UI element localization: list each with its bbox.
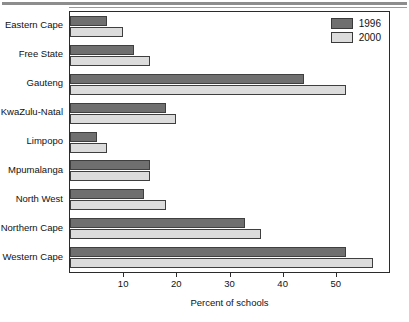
x-tick-mark xyxy=(283,273,284,277)
x-tick-label: 30 xyxy=(224,278,235,289)
legend-swatch-icon xyxy=(331,18,353,29)
bar-eastern-cape-2000 xyxy=(70,27,123,37)
header-rule-thick xyxy=(2,2,407,5)
y-axis-label: Mpumalanga xyxy=(8,165,63,175)
x-tick-mark xyxy=(176,273,177,277)
y-axis-label: Gauteng xyxy=(27,78,63,88)
x-tick-label: 10 xyxy=(118,278,129,289)
x-tick-mark xyxy=(230,273,231,277)
bar-northern-cape-1996 xyxy=(70,218,245,228)
chart-plot-frame: 19962000 xyxy=(69,11,390,273)
x-tick-label: 40 xyxy=(277,278,288,289)
y-axis-label: Free State xyxy=(19,49,63,59)
legend-label: 2000 xyxy=(359,32,381,43)
bar-kwazulu-natal-2000 xyxy=(70,114,176,124)
bar-limpopo-2000 xyxy=(70,143,107,153)
bar-northern-cape-2000 xyxy=(70,229,261,239)
x-tick-mark xyxy=(123,273,124,277)
y-axis-category-labels: Eastern CapeFree StateGautengKwaZulu-Nat… xyxy=(0,11,66,273)
header-rule-thin xyxy=(69,7,407,8)
x-tick-mark xyxy=(336,273,337,277)
bar-western-cape-2000 xyxy=(70,258,373,268)
bar-gauteng-1996 xyxy=(70,74,304,84)
bar-gauteng-2000 xyxy=(70,85,346,95)
bar-western-cape-1996 xyxy=(70,247,346,257)
x-axis-ticks: 1020304050 xyxy=(69,273,390,289)
bar-kwazulu-natal-1996 xyxy=(70,103,166,113)
legend-item: 1996 xyxy=(331,18,381,29)
header-rules xyxy=(0,0,409,10)
y-axis-label: KwaZulu-Natal xyxy=(1,107,63,117)
y-axis-label: Eastern Cape xyxy=(5,20,63,30)
bar-mpumalanga-1996 xyxy=(70,160,150,170)
bar-north-west-2000 xyxy=(70,200,166,210)
x-tick-label: 50 xyxy=(331,278,342,289)
y-axis-label: Western Cape xyxy=(2,252,63,262)
legend-label: 1996 xyxy=(359,18,381,29)
bar-plot-area xyxy=(70,12,389,272)
legend-swatch-icon xyxy=(331,32,353,43)
chart-legend: 19962000 xyxy=(329,17,383,44)
bar-free-state-2000 xyxy=(70,56,150,66)
bar-free-state-1996 xyxy=(70,45,134,55)
x-tick-label: 20 xyxy=(171,278,182,289)
y-axis-label: North West xyxy=(16,194,63,204)
y-axis-label: Northern Cape xyxy=(1,223,63,233)
bar-north-west-1996 xyxy=(70,189,144,199)
bar-eastern-cape-1996 xyxy=(70,16,107,26)
y-axis-label: Limpopo xyxy=(27,136,63,146)
x-axis-title: Percent of schools xyxy=(69,297,390,308)
bar-limpopo-1996 xyxy=(70,132,97,142)
bar-mpumalanga-2000 xyxy=(70,171,150,181)
legend-item: 2000 xyxy=(331,32,381,43)
